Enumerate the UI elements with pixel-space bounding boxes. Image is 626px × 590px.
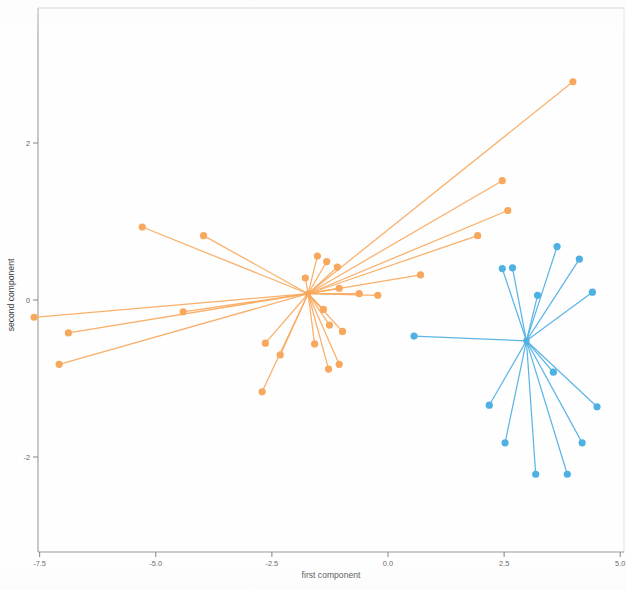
data-point-cluster-orange-4 xyxy=(417,271,424,278)
data-points xyxy=(30,78,600,478)
data-point-cluster-orange-17 xyxy=(336,361,343,368)
data-point-cluster-orange-2 xyxy=(504,207,511,214)
cluster-link-0-19 xyxy=(265,294,308,343)
data-point-cluster-orange-5 xyxy=(356,290,363,297)
data-point-cluster-orange-14 xyxy=(339,328,346,335)
data-point-cluster-blue-3 xyxy=(576,256,583,263)
y-tick-label-1: 0 xyxy=(26,296,30,305)
data-point-cluster-blue-10 xyxy=(501,439,508,446)
data-point-cluster-orange-24 xyxy=(65,329,72,336)
cluster-link-1-0 xyxy=(526,247,557,341)
cluster-link-0-2 xyxy=(308,211,508,294)
plot-canvas: -7.5-5.0-2.50.02.55.0 20-2 first compone… xyxy=(0,0,626,590)
data-point-cluster-orange-25 xyxy=(30,314,37,321)
x-tick-label-5: 5.0 xyxy=(615,559,625,568)
x-axis-title: first component xyxy=(302,570,361,580)
cluster-link-0-20 xyxy=(262,294,308,392)
data-point-cluster-orange-15 xyxy=(311,340,318,347)
x-tick-label-0: -7.5 xyxy=(33,559,46,568)
data-point-cluster-orange-21 xyxy=(200,232,207,239)
data-point-cluster-orange-19 xyxy=(262,340,269,347)
data-point-cluster-orange-11 xyxy=(302,274,309,281)
data-point-cluster-blue-8 xyxy=(593,403,600,410)
cluster-link-1-13 xyxy=(526,341,567,474)
data-point-cluster-blue-0 xyxy=(553,243,560,250)
cluster-link-1-3 xyxy=(526,259,579,341)
data-point-cluster-blue-11 xyxy=(532,471,539,478)
cluster-link-lines xyxy=(34,82,597,475)
x-tick-label-4: 2.5 xyxy=(499,559,509,568)
data-point-cluster-orange-20 xyxy=(259,388,266,395)
x-tick-label-3: 0.0 xyxy=(383,559,393,568)
cluster-link-1-9 xyxy=(489,341,526,405)
data-point-cluster-orange-13 xyxy=(326,322,333,329)
data-point-cluster-orange-22 xyxy=(180,308,187,315)
y-tick-label-0: 2 xyxy=(26,139,30,148)
data-point-cluster-orange-18 xyxy=(277,351,284,358)
data-point-cluster-orange-3 xyxy=(474,232,481,239)
cluster-link-0-23 xyxy=(142,227,308,294)
x-tick-label-2: -2.5 xyxy=(266,559,279,568)
data-point-cluster-orange-0 xyxy=(569,78,576,85)
data-point-cluster-blue-7 xyxy=(550,369,557,376)
y-tick-label-2: -2 xyxy=(23,453,30,462)
data-point-cluster-orange-26 xyxy=(56,361,63,368)
data-point-cluster-blue-5 xyxy=(589,289,596,296)
data-point-cluster-blue-13 xyxy=(564,471,571,478)
data-point-cluster-orange-9 xyxy=(334,263,341,270)
data-point-cluster-blue-4 xyxy=(534,292,541,299)
cluster-center-cluster-orange xyxy=(305,291,311,297)
data-point-cluster-blue-6 xyxy=(410,333,417,340)
cluster-link-1-12 xyxy=(526,341,582,443)
scatter-plot-figure: -7.5-5.0-2.50.02.55.0 20-2 first compone… xyxy=(0,0,626,590)
y-axis-title: second component xyxy=(6,258,16,331)
data-point-cluster-blue-9 xyxy=(486,402,493,409)
cluster-link-1-6 xyxy=(414,336,526,341)
data-point-cluster-blue-2 xyxy=(509,264,516,271)
data-point-cluster-orange-8 xyxy=(323,258,330,265)
data-point-cluster-orange-6 xyxy=(336,285,343,292)
cluster-link-0-0 xyxy=(308,82,573,294)
data-point-cluster-blue-12 xyxy=(579,439,586,446)
cluster-center-cluster-blue xyxy=(523,338,529,344)
data-point-cluster-orange-12 xyxy=(320,306,327,313)
data-point-cluster-blue-1 xyxy=(499,265,506,272)
cluster-link-1-7 xyxy=(526,341,553,372)
cluster-link-0-7 xyxy=(308,294,378,296)
cluster-link-0-21 xyxy=(204,236,309,294)
x-axis-ticks: -7.5-5.0-2.50.02.55.0 xyxy=(33,552,625,568)
cluster-link-1-11 xyxy=(526,341,535,474)
data-point-cluster-orange-23 xyxy=(139,223,146,230)
data-point-cluster-orange-10 xyxy=(314,252,321,259)
y-axis-ticks: 20-2 xyxy=(23,139,38,462)
data-point-cluster-orange-7 xyxy=(374,292,381,299)
x-tick-label-1: -5.0 xyxy=(149,559,162,568)
data-point-cluster-orange-16 xyxy=(325,365,332,372)
cluster-link-1-10 xyxy=(505,341,526,443)
data-point-cluster-orange-1 xyxy=(499,177,506,184)
